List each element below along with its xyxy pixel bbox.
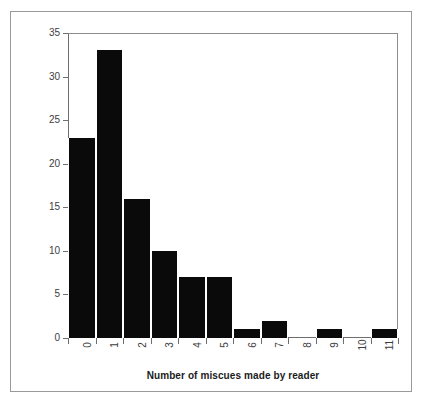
x-axis-tick-mark — [261, 338, 262, 344]
x-axis-tick-mark — [233, 338, 234, 344]
y-axis-tick-label: 20 — [28, 159, 60, 169]
bar-slot — [316, 33, 344, 338]
x-label-slot: 6 — [233, 345, 261, 369]
bar — [123, 199, 151, 338]
y-axis-tick-labels: 05101520253035 — [28, 33, 60, 338]
x-label-slot: 4 — [178, 345, 206, 369]
y-axis-tick-label: 0 — [28, 333, 60, 343]
histogram-figure: 05101520253035 01234567891011 Number of … — [0, 0, 425, 416]
x-label-slot: 10 — [343, 345, 371, 369]
x-label-slot: 0 — [68, 345, 96, 369]
bar-slot — [371, 33, 399, 338]
bar-slot — [96, 33, 124, 338]
x-axis-tick-mark — [151, 338, 152, 344]
x-axis-tick-label: 1 — [109, 342, 120, 348]
bar-slot — [233, 33, 261, 338]
bar-series — [68, 33, 398, 338]
y-axis-tick-label: 25 — [28, 115, 60, 125]
x-axis-tick-mark — [178, 338, 179, 344]
x-axis-tick-label: 10 — [357, 339, 368, 350]
bar-slot — [288, 33, 316, 338]
x-axis-tick-label: 8 — [302, 342, 313, 348]
bar-slot — [178, 33, 206, 338]
x-axis-tick-label: 4 — [192, 342, 203, 348]
x-label-slot: 8 — [288, 345, 316, 369]
x-axis-tick-label: 2 — [137, 342, 148, 348]
bar — [261, 321, 289, 338]
x-axis-tick-label: 6 — [247, 342, 258, 348]
x-axis-tick-label: 5 — [219, 342, 230, 348]
x-axis-tick-mark — [288, 338, 289, 344]
x-label-slot: 1 — [96, 345, 124, 369]
bar — [316, 329, 344, 338]
x-axis-tick-label: 0 — [82, 342, 93, 348]
bar — [178, 277, 206, 338]
x-label-slot: 3 — [151, 345, 179, 369]
bar-slot — [261, 33, 289, 338]
x-axis-tick-mark — [316, 338, 317, 344]
bar — [96, 50, 124, 338]
bar — [68, 138, 96, 338]
x-label-slot: 11 — [371, 345, 399, 369]
x-axis-tick-mark — [206, 338, 207, 344]
x-axis-tick-mark — [343, 338, 344, 344]
y-axis-tick-label: 10 — [28, 246, 60, 256]
bar — [151, 251, 179, 338]
x-axis-tick-label: 11 — [384, 340, 395, 350]
x-label-slot: 7 — [261, 345, 289, 369]
y-axis-tick-label: 35 — [28, 28, 60, 38]
x-label-slot: 5 — [206, 345, 234, 369]
bar-slot — [206, 33, 234, 338]
x-label-slot: 2 — [123, 345, 151, 369]
x-axis-tick-label: 3 — [164, 342, 175, 348]
x-axis-tick-mark — [371, 338, 372, 344]
x-axis-tick-mark — [398, 338, 399, 344]
x-axis-title: Number of miscues made by reader — [68, 370, 398, 381]
bar-slot — [68, 33, 96, 338]
x-axis-tick-label: 9 — [329, 342, 340, 348]
y-axis-tick-label: 15 — [28, 202, 60, 212]
bar-slot — [151, 33, 179, 338]
bar-slot — [123, 33, 151, 338]
x-axis-tick-labels: 01234567891011 — [68, 345, 398, 369]
x-axis-tick-mark — [68, 338, 69, 344]
x-label-slot: 9 — [316, 345, 344, 369]
bar — [206, 277, 234, 338]
y-axis-tick-label: 30 — [28, 72, 60, 82]
y-axis-tick-label: 5 — [28, 289, 60, 299]
bar — [233, 329, 261, 338]
bar — [371, 329, 399, 338]
x-axis-tick-mark — [123, 338, 124, 344]
x-axis-tick-label: 7 — [274, 342, 285, 348]
bar-slot — [343, 33, 371, 338]
x-axis-tick-mark — [96, 338, 97, 344]
